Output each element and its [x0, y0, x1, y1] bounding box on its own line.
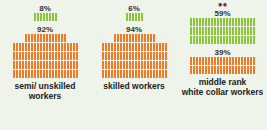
person-icon — [238, 66, 240, 74]
person-icon — [214, 66, 216, 74]
person-icon — [196, 27, 198, 35]
person-icon — [202, 57, 204, 65]
person-icon — [132, 70, 134, 78]
person-icon — [70, 52, 72, 60]
person-icon — [37, 61, 39, 69]
person-icon — [25, 34, 27, 42]
person-icon — [153, 70, 155, 78]
person-icon — [120, 34, 122, 42]
person-icon — [25, 52, 27, 60]
person-icon — [40, 61, 42, 69]
person-icon — [34, 34, 36, 42]
person-icon — [108, 52, 110, 60]
person-icon — [190, 18, 192, 26]
person-icon — [43, 61, 45, 69]
person-icon — [70, 61, 72, 69]
person-icon — [52, 43, 54, 51]
person-icon — [70, 70, 72, 78]
person-icon — [58, 34, 60, 42]
person-icon — [253, 57, 255, 65]
person-icon — [49, 70, 51, 78]
person-icon — [129, 43, 131, 51]
person-icon — [55, 70, 57, 78]
person-icon — [126, 70, 128, 78]
person-icon — [43, 34, 45, 42]
person-icon — [73, 43, 75, 51]
person-icon — [13, 61, 15, 69]
person-icon — [58, 70, 60, 78]
person-icon — [52, 70, 54, 78]
person-icon — [117, 61, 119, 69]
person-icon — [147, 61, 149, 69]
person-icon — [102, 43, 104, 51]
person-icon — [25, 70, 27, 78]
person-icon — [220, 57, 222, 65]
person-icon — [211, 57, 213, 65]
person-icon — [43, 52, 45, 60]
person-icon — [235, 66, 237, 74]
person-icon — [61, 52, 63, 60]
person-icon — [217, 18, 219, 26]
person-icon — [58, 61, 60, 69]
person-icon — [241, 57, 243, 65]
person-icon — [244, 66, 246, 74]
person-icon — [55, 52, 57, 60]
person-icon — [129, 70, 131, 78]
person-icon — [49, 52, 51, 60]
person-icon — [117, 43, 119, 51]
person-icon — [37, 43, 39, 51]
person-icon — [64, 52, 66, 60]
person-icon — [46, 13, 48, 21]
person-icon — [55, 34, 57, 42]
person-icon — [76, 61, 78, 69]
person-icon — [162, 43, 164, 51]
person-icon — [31, 34, 33, 42]
person-icon — [159, 43, 161, 51]
person-icon — [40, 43, 42, 51]
person-icon — [25, 43, 27, 51]
person-icon — [220, 18, 222, 26]
person-icon — [25, 61, 27, 69]
person-icon — [199, 27, 201, 35]
person-icon — [31, 43, 33, 51]
person-icon — [19, 43, 21, 51]
person-icon — [150, 70, 152, 78]
person-icon — [126, 52, 128, 60]
person-icon — [144, 61, 146, 69]
person-icon — [129, 61, 131, 69]
person-icon — [217, 66, 219, 74]
person-icon — [120, 43, 122, 51]
person-icon — [111, 52, 113, 60]
person-icon — [205, 57, 207, 65]
person-icon — [31, 52, 33, 60]
person-icon — [223, 57, 225, 65]
person-icon — [232, 66, 234, 74]
person-icon — [73, 70, 75, 78]
person-icon — [156, 43, 158, 51]
person-icon — [129, 52, 131, 60]
person-icon — [229, 57, 231, 65]
person-icon — [202, 36, 204, 44]
person-icon — [114, 61, 116, 69]
person-icon — [208, 66, 210, 74]
person-icon — [67, 70, 69, 78]
person-icon — [40, 52, 42, 60]
person-icon — [238, 18, 240, 26]
person-icon — [217, 27, 219, 35]
person-icon — [117, 52, 119, 60]
group-label: middle rank white collar workers — [182, 77, 264, 97]
person-icon — [52, 52, 54, 60]
person-icon — [108, 70, 110, 78]
person-icon — [129, 34, 131, 42]
person-icon — [223, 27, 225, 35]
person-icon — [67, 52, 69, 60]
person-icon — [52, 13, 54, 21]
person-icon — [123, 61, 125, 69]
person-icon — [147, 52, 149, 60]
person-icon — [64, 70, 66, 78]
person-icon — [220, 27, 222, 35]
person-icon — [58, 43, 60, 51]
person-icon — [141, 70, 143, 78]
person-icon — [46, 34, 48, 42]
person-icon — [126, 43, 128, 51]
